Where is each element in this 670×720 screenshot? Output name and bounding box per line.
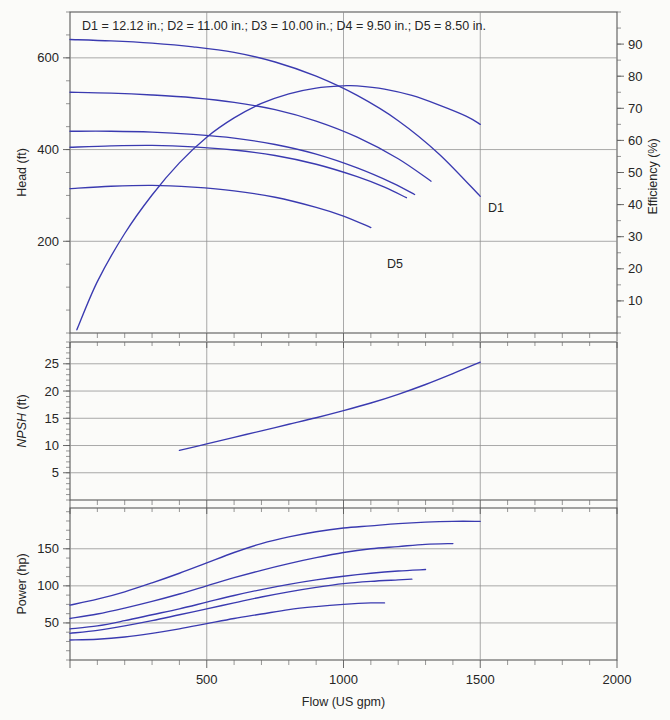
efficiency-axis-ticklabel: 90 xyxy=(628,37,642,52)
head-panel-xticks xyxy=(70,333,617,341)
power-panel-xticks: 500100015002000 xyxy=(70,660,631,687)
power-axis-ticklabel: 100 xyxy=(37,578,59,593)
flow-ticklabel-2000: 2000 xyxy=(603,672,632,687)
head-axis-ticks: 200400600 xyxy=(37,12,70,333)
head-axis-ticklabel: 400 xyxy=(37,142,59,157)
head-curves xyxy=(70,40,480,330)
npsh-axis-title-italic: NPSH xyxy=(15,412,29,448)
head-axis-ticklabel: 200 xyxy=(37,234,59,249)
npsh-panel-xticks-top xyxy=(70,342,617,348)
head-curve-d3 xyxy=(70,131,415,194)
power-curve-d5 xyxy=(70,603,385,640)
power-curve-d4 xyxy=(70,579,412,633)
pump-performance-figure: 200400600102030405060708090D1 = 12.12 in… xyxy=(0,0,670,720)
power-curves xyxy=(70,521,480,640)
efficiency-axis-ticklabel: 40 xyxy=(628,197,642,212)
power-curve-d2 xyxy=(70,544,453,619)
power-curve-d1 xyxy=(70,521,480,605)
flow-ticklabel-500: 500 xyxy=(196,672,218,687)
power-axis-title: Power (hp) xyxy=(15,553,29,614)
npsh-panel-xticks xyxy=(70,500,617,508)
head-axis-title: Head (ft) xyxy=(15,148,29,197)
efficiency-axis-ticklabel: 10 xyxy=(628,293,642,308)
head-curve-efficiency xyxy=(77,85,480,329)
npsh-curves xyxy=(179,362,480,450)
head-curve-d4 xyxy=(70,145,406,197)
efficiency-axis-ticklabel: 50 xyxy=(628,165,642,180)
power-curve-d3 xyxy=(70,570,426,629)
efficiency-axis-ticklabel: 20 xyxy=(628,261,642,276)
efficiency-axis-ticklabel: 80 xyxy=(628,69,642,84)
npsh-axis-ticklabel: 5 xyxy=(52,465,59,480)
flow-ticklabel-1000: 1000 xyxy=(329,672,358,687)
curve-label-d1: D1 xyxy=(488,201,504,215)
efficiency-axis-ticklabel: 60 xyxy=(628,133,642,148)
npsh-axis-title-unit: (ft) xyxy=(15,394,29,413)
npsh-axis-ticklabel: 20 xyxy=(45,384,59,399)
flow-ticklabel-1500: 1500 xyxy=(466,672,495,687)
npsh-curve xyxy=(179,362,480,450)
npsh-axis-ticklabel: 25 xyxy=(45,356,59,371)
efficiency-axis-ticklabel: 70 xyxy=(628,101,642,116)
npsh-axis-title: NPSH (ft) xyxy=(15,394,29,447)
power-axis-ticklabel: 150 xyxy=(37,541,59,556)
head-curve-d2 xyxy=(70,92,431,181)
power-axis-ticks: 50100150 xyxy=(37,512,70,660)
power-panel-xticks-top xyxy=(70,508,617,514)
efficiency-axis-ticklabel: 30 xyxy=(628,229,642,244)
flow-axis-title: Flow (US gpm) xyxy=(302,695,385,709)
npsh-axis-ticks: 510152025 xyxy=(45,342,70,500)
head-axis-ticklabel: 600 xyxy=(37,50,59,65)
npsh-panel-vertical-gridlines xyxy=(207,342,481,500)
npsh-panel-text: NPSH (ft) xyxy=(15,394,29,447)
power-axis-ticklabel: 50 xyxy=(45,615,59,630)
npsh-axis-ticklabel: 15 xyxy=(45,411,59,426)
head-panel-text: D1 = 12.12 in.; D2 = 11.00 in.; D3 = 10.… xyxy=(15,19,660,271)
npsh-axis-ticklabel: 10 xyxy=(45,438,59,453)
curve-label-d5: D5 xyxy=(387,257,403,271)
head-curve-d5 xyxy=(70,185,371,227)
chart-canvas: 200400600102030405060708090D1 = 12.12 in… xyxy=(0,0,670,720)
efficiency-axis-ticks: 102030405060708090 xyxy=(617,12,642,333)
efficiency-axis-title: Efficiency (%) xyxy=(646,138,660,214)
plot-title: D1 = 12.12 in.; D2 = 11.00 in.; D3 = 10.… xyxy=(82,19,486,33)
